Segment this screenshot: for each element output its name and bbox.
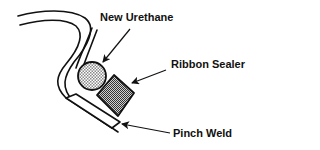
label-pinch-weld: Pinch Weld (173, 128, 232, 139)
label-ribbon-sealer: Ribbon Sealer (171, 59, 245, 70)
arrow-new-urethane (103, 29, 130, 62)
new-urethane-bead (78, 62, 106, 90)
arrow-ribbon-sealer (132, 70, 166, 83)
arrow-pinch-weld (122, 124, 170, 133)
label-new-urethane: New Urethane (100, 12, 173, 23)
